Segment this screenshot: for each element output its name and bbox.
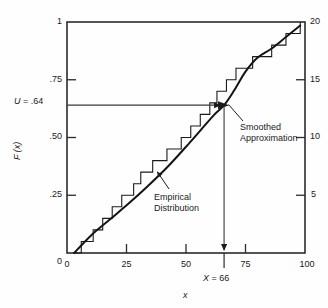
y-axis-title: F (x) [12,142,22,160]
smoothed-annotation-line2: Approximation [240,133,298,144]
smoothed-leader-line [229,105,244,122]
x-tick-label-75: 75 [235,259,256,269]
empirical-distribution-annotation: Empirical Distribution [154,192,199,214]
y2-tick-label-10: 10 [310,131,320,141]
smoothed-annotation-line1: Smoothed [240,122,298,133]
x-axis-title: x [183,290,188,300]
x-tick-label-50: 50 [175,259,197,269]
u-value-label: U = .64 [14,96,43,106]
u-value-text: = .64 [21,96,44,106]
smoothed-approximation-annotation: Smoothed Approximation [240,122,298,144]
empirical-annotation-line1: Empirical [154,192,199,203]
y2-tick-label-20: 20 [310,16,320,26]
bottom-axis-ticks [127,244,246,253]
y-tick-label-075: .75 [34,74,62,84]
x-solution-text: = 66 [209,273,229,283]
x-tick-label-100: 100 [294,259,320,269]
y-tick-label-050: .50 [34,131,62,141]
empirical-annotation-line2: Distribution [154,203,199,214]
chart-figure: 1 .75 .50 .25 0 U = .64 20 15 10 5 0 25 … [0,0,328,308]
y-tick-label-025: .25 [34,189,62,199]
x-tick-label-0: 0 [57,259,77,269]
y2-tick-label-15: 15 [310,74,320,84]
y-tick-label-1: 1 [38,16,62,26]
y2-tick-label-5: 5 [311,189,316,199]
empirical-leader-line [158,172,170,189]
left-axis-ticks [67,80,76,196]
x-solution-label: X = 66 [203,273,229,283]
x-tick-label-25: 25 [116,259,137,269]
